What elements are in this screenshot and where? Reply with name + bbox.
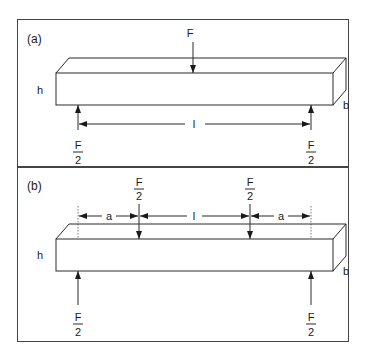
support-left-b-num: F <box>75 311 82 323</box>
load-right-b-num: F <box>247 176 254 188</box>
beam-bending-diagram: (a) h b F F 2 F 2 l (b) <box>0 0 380 355</box>
beam-a <box>56 58 346 105</box>
support-right-b-den: 2 <box>308 326 314 338</box>
beam-a-front-face <box>56 73 333 105</box>
support-left-a-num: F <box>75 139 82 151</box>
panel-b-label: (b) <box>27 179 42 193</box>
height-label-b: h <box>37 249 43 261</box>
panel-a: (a) h b F F 2 F 2 l <box>27 27 349 166</box>
offset-label-left-b: a <box>106 210 113 222</box>
panel-a-frame <box>18 20 349 167</box>
width-label-b: b <box>343 265 349 277</box>
beam-b <box>56 224 346 271</box>
beam-b-front-face <box>56 239 333 271</box>
load-left-b-num: F <box>136 176 143 188</box>
panel-b: (b) h b F 2 F 2 a l a <box>27 176 349 338</box>
load-label-a: F <box>187 27 194 39</box>
support-right-a-den: 2 <box>308 154 314 166</box>
support-right-b-num: F <box>308 311 315 323</box>
support-left-b-den: 2 <box>75 326 81 338</box>
load-right-b-den: 2 <box>247 190 253 202</box>
panel-b-frame <box>18 168 349 342</box>
support-left-a-den: 2 <box>75 154 81 166</box>
support-right-a-num: F <box>308 139 315 151</box>
width-label-a: b <box>343 99 349 111</box>
span-label-a: l <box>193 118 195 130</box>
load-left-b-den: 2 <box>136 190 142 202</box>
beam-b-top-face <box>56 224 346 239</box>
height-label-a: h <box>37 84 43 96</box>
span-label-b: l <box>193 210 195 222</box>
panel-a-label: (a) <box>27 32 42 46</box>
beam-a-top-face <box>56 58 346 73</box>
offset-label-right-b: a <box>278 210 285 222</box>
